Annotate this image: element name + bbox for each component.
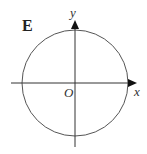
panel-label: E — [22, 17, 33, 34]
y-axis-arrow-icon — [71, 20, 79, 29]
x-axis-label: x — [133, 84, 140, 99]
origin-label: O — [64, 85, 74, 100]
coordinate-diagram: E y x O — [0, 0, 147, 154]
y-axis-label: y — [68, 5, 76, 20]
